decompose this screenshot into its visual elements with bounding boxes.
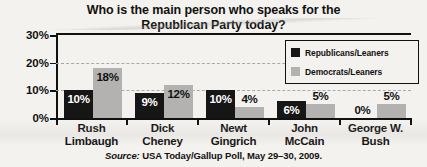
x-axis-label-line: George W. xyxy=(340,122,411,135)
x-axis-label-line: Limbaugh xyxy=(56,135,127,148)
bar-value-label-rep-2: 10% xyxy=(206,93,235,105)
y-tick-label-10: 10% xyxy=(26,84,49,96)
x-axis-category-labels: RushLimbaughDickCheneyNewtGingrichJohnMc… xyxy=(56,122,411,148)
legend-swatch-democrats-icon xyxy=(291,67,300,76)
x-axis-label-3: JohnMcCain xyxy=(269,122,340,147)
bar-group: 10%18% xyxy=(56,35,127,118)
bar-group: 9%12% xyxy=(127,35,198,118)
bar-value-label-rep-1: 9% xyxy=(135,96,164,108)
chart-legend: Republicans/Leaners Democrats/Leaners xyxy=(285,40,419,84)
bar-value-label-dem-1: 12% xyxy=(164,88,193,100)
x-axis-label-line: McCain xyxy=(269,135,340,148)
bar-value-label-rep-3: 6% xyxy=(277,104,306,116)
bar-value-label-dem-0: 18% xyxy=(93,71,122,83)
bar-dem-3 xyxy=(306,104,335,118)
legend-label-democrats: Democrats/Leaners xyxy=(305,67,382,77)
bar-dem-2 xyxy=(235,107,264,118)
source-text: USA Today/Gallup Poll, May 29–30, 2009. xyxy=(142,150,322,161)
x-axis-label-line: Bush xyxy=(340,135,411,148)
y-tick-label-0: 0% xyxy=(32,112,49,124)
chart-title-line-2: Republican Party today? xyxy=(0,18,427,33)
y-tick-label-20: 20% xyxy=(26,57,49,69)
x-axis-label-line: John xyxy=(269,122,340,135)
source-prefix: Source: xyxy=(105,150,140,161)
x-axis-label-line: Cheney xyxy=(127,135,198,148)
bar-dem-4 xyxy=(377,104,406,118)
x-axis-label-1: DickCheney xyxy=(127,122,198,147)
x-axis-label-line: Newt xyxy=(198,122,269,135)
y-tick-label-30: 30% xyxy=(26,29,49,41)
x-axis-label-line: Gingrich xyxy=(198,135,269,148)
bar-value-label-dem-3: 5% xyxy=(306,90,335,102)
x-axis-label-line: Rush xyxy=(56,122,127,135)
bar-value-label-dem-4: 5% xyxy=(377,90,406,102)
x-axis-label-line: Dick xyxy=(127,122,198,135)
source-note: Source: USA Today/Gallup Poll, May 29–30… xyxy=(0,150,427,161)
x-axis-label-2: NewtGingrich xyxy=(198,122,269,147)
bar-value-label-dem-2: 4% xyxy=(235,93,264,105)
chart-title-line-1: Who is the main person who speaks for th… xyxy=(87,3,341,17)
x-axis-label-0: RushLimbaugh xyxy=(56,122,127,147)
x-axis-label-4: George W.Bush xyxy=(340,122,411,147)
legend-item-republicans: Republicans/Leaners xyxy=(291,45,413,60)
bar-group: 10%4% xyxy=(198,35,269,118)
x-axis-line xyxy=(56,118,411,120)
legend-item-democrats: Democrats/Leaners xyxy=(291,64,413,79)
legend-label-republicans: Republicans/Leaners xyxy=(305,48,389,58)
bar-value-label-rep-0: 10% xyxy=(64,93,93,105)
chart-title: Who is the main person who speaks for th… xyxy=(0,3,427,32)
bar-value-label-rep-4: 0% xyxy=(348,104,377,116)
legend-swatch-republicans-icon xyxy=(291,48,300,57)
